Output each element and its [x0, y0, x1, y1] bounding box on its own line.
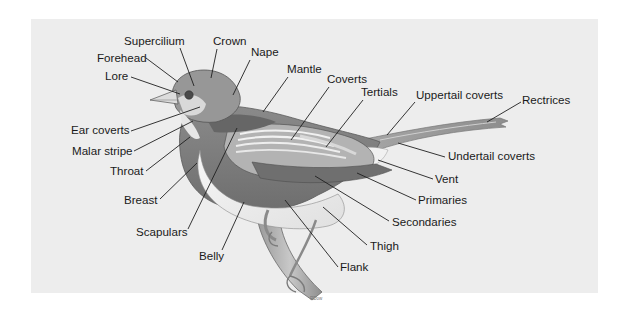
label-crown: Crown [213, 34, 247, 47]
eye [185, 91, 193, 99]
label-thigh: Thigh [370, 239, 399, 252]
leader-mantle [263, 77, 288, 112]
label-undertail-coverts: Undertail coverts [448, 149, 535, 162]
label-belly: Belly [199, 249, 224, 262]
label-vent: Vent [435, 172, 459, 185]
label-ear-coverts: Ear coverts [71, 123, 130, 136]
leader-primaries [357, 173, 416, 200]
leader-nape [233, 60, 250, 95]
label-tertials: Tertials [361, 85, 398, 98]
label-breast: Breast [124, 193, 158, 206]
label-primaries: Primaries [418, 193, 467, 206]
label-scapulars: Scapulars [136, 225, 188, 238]
tail [360, 118, 508, 152]
label-mantle: Mantle [287, 62, 322, 75]
label-secondaries: Secondaries [392, 215, 457, 228]
label-rectrices: Rectrices [522, 93, 571, 106]
label-coverts: Coverts [327, 72, 367, 85]
label-lore: Lore [105, 69, 128, 82]
artist-signature: RDow [310, 296, 323, 301]
leader-lore [131, 77, 180, 94]
leader-forehead [146, 58, 178, 82]
label-supercilium: Supercilium [124, 34, 185, 47]
label-flank: Flank [340, 260, 369, 273]
leader-undertail-coverts [398, 143, 445, 157]
label-forehead: Forehead [97, 51, 147, 64]
label-throat: Throat [110, 164, 144, 177]
bird-illustration: Supercilium Crown Forehead Nape Lore Man… [0, 0, 630, 330]
label-nape: Nape [251, 45, 279, 58]
label-uppertail-coverts: Uppertail coverts [416, 88, 503, 101]
leader-rectrices [487, 102, 521, 122]
label-malar-stripe: Malar stripe [72, 144, 133, 157]
bird-anatomy-diagram: Supercilium Crown Forehead Nape Lore Man… [0, 0, 630, 330]
leader-thigh [323, 207, 367, 245]
